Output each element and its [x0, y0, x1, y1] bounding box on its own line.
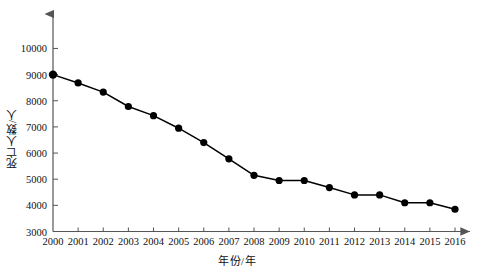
x-tick-label: 2009 [269, 236, 290, 247]
data-series-line [53, 75, 455, 210]
y-tick-label: 4000 [0, 200, 47, 211]
data-point [301, 177, 308, 184]
chart-canvas [0, 0, 482, 273]
y-tick-label: 9000 [0, 69, 47, 80]
data-point [75, 79, 82, 86]
x-tick-label: 2002 [93, 236, 114, 247]
x-tick-label: 2011 [319, 236, 340, 247]
y-axis-title: 死亡人数/人 [4, 108, 20, 169]
x-tick-label: 2010 [294, 236, 315, 247]
data-point [100, 89, 107, 96]
data-point [326, 184, 333, 191]
data-point [175, 125, 182, 132]
y-tick-label: 5000 [0, 174, 47, 185]
data-point [451, 206, 458, 213]
data-point [225, 155, 232, 162]
x-tick-label: 2005 [168, 236, 189, 247]
data-point [276, 177, 283, 184]
x-tick-label: 2000 [43, 236, 64, 247]
x-tick-label: 2016 [445, 236, 466, 247]
y-tick-label: 10000 [0, 43, 47, 54]
x-tick-label: 2008 [244, 236, 265, 247]
x-tick-label: 2006 [193, 236, 214, 247]
data-point [150, 112, 157, 119]
x-tick-label: 2013 [369, 236, 390, 247]
line-chart: 300040005000600070008000900010000 200020… [0, 0, 482, 273]
data-point [200, 139, 207, 146]
axes [53, 14, 470, 232]
x-tick-label: 2004 [143, 236, 164, 247]
x-axis-title: 年份/年 [218, 252, 256, 268]
x-tick-label: 2007 [218, 236, 239, 247]
data-point [426, 199, 433, 206]
data-point [401, 199, 408, 206]
data-point [250, 172, 257, 179]
y-tick-label: 3000 [0, 226, 47, 237]
x-tick-label: 2003 [118, 236, 139, 247]
x-tick-label: 2012 [344, 236, 365, 247]
data-point [376, 191, 383, 198]
data-point [125, 103, 132, 110]
data-point [49, 70, 57, 78]
y-tick-label: 8000 [0, 95, 47, 106]
x-tick-label: 2014 [394, 236, 415, 247]
x-tick-label: 2015 [419, 236, 440, 247]
x-tick-label: 2001 [68, 236, 89, 247]
data-point [351, 191, 358, 198]
data-point-markers [49, 70, 459, 212]
